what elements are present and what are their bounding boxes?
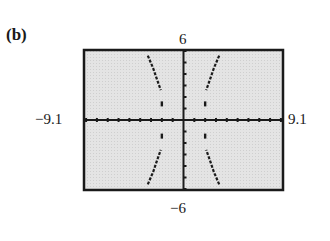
calculator-screen [0,0,330,241]
